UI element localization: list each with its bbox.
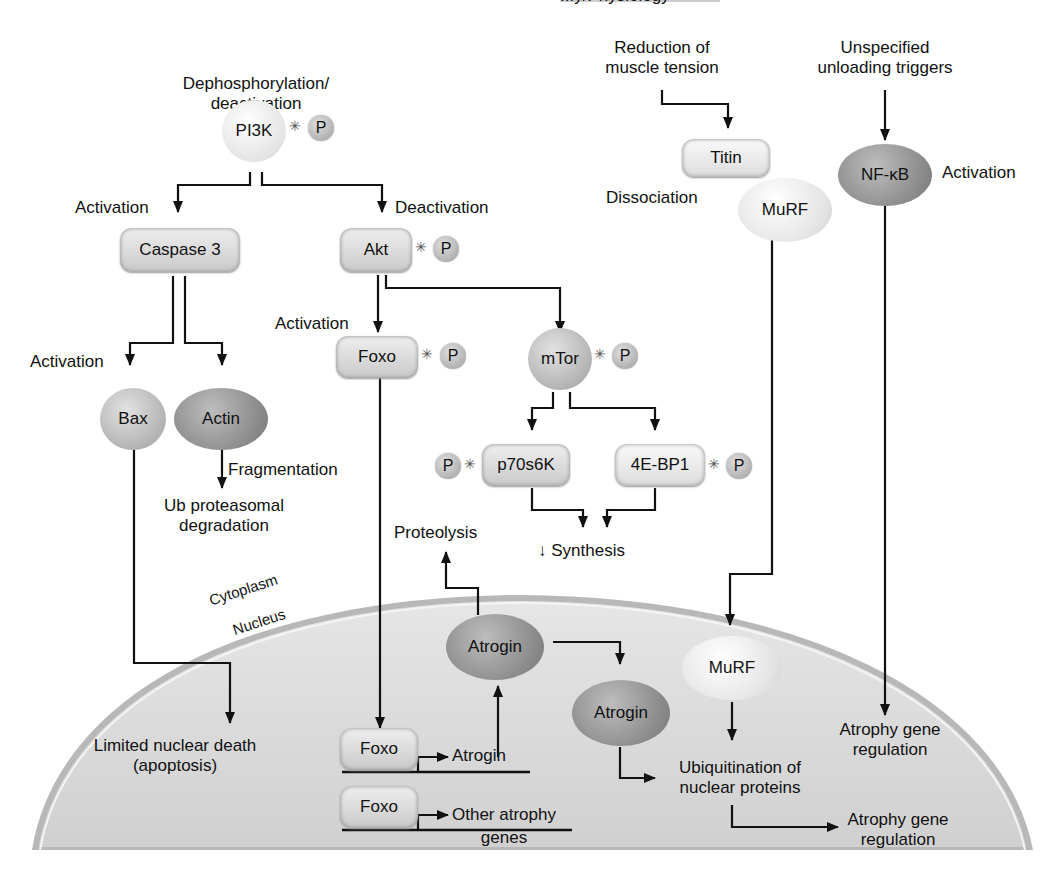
label-fragmentation: Fragmentation	[228, 460, 338, 480]
unloading-trigger-label: Unspecified unloading triggers	[817, 38, 952, 78]
node-mtor: mTor	[528, 328, 592, 390]
phosphate-icon: P	[726, 453, 752, 479]
outcome-atrophy-regulation-1: Atrophy gene regulation	[839, 720, 940, 760]
outcome-proteolysis: Proteolysis	[394, 523, 477, 543]
label-dissociation: Dissociation	[606, 188, 698, 208]
node-p70s6k: p70s6K	[482, 444, 570, 486]
bond-icon: ✳	[594, 346, 606, 362]
outcome-nuclear-death: Limited nuclear death (apoptosis)	[94, 736, 257, 776]
phosphate-icon: P	[308, 115, 334, 141]
node-actin: Actin	[174, 388, 268, 450]
node-atrogin-2: Atrogin	[572, 680, 670, 746]
label-activation-bax: Activation	[30, 352, 104, 372]
phosphate-icon: P	[612, 343, 638, 369]
outcome-ubiquitination: Ubiquitination of nuclear proteins	[679, 758, 801, 798]
node-4ebp1: 4E-BP1	[615, 444, 705, 486]
node-atrogin-1: Atrogin	[446, 614, 544, 680]
bond-icon: ✳	[289, 118, 301, 134]
bond-icon: ✳	[708, 456, 720, 472]
outcome-ub-degradation: Ub proteasomal degradation	[164, 496, 284, 536]
label-deactivation-akt: Deactivation	[395, 198, 489, 218]
node-foxo-gene-2: Foxo	[340, 786, 418, 828]
phosphate-icon: P	[435, 453, 461, 479]
node-bax: Bax	[100, 388, 166, 450]
node-murf: MuRF	[738, 178, 832, 242]
node-foxo-gene-1: Foxo	[340, 728, 418, 770]
label-activation-nfkb: Activation	[942, 163, 1016, 183]
node-pi3k: PI3K	[222, 100, 286, 162]
node-nfkb: NF-κB	[838, 144, 932, 206]
node-titin: Titin	[682, 139, 770, 177]
bond-icon: ✳	[464, 456, 476, 472]
gene-other-atrophy: Other atrophy genes	[452, 803, 556, 849]
bond-icon: ✳	[415, 239, 427, 255]
bond-icon: ✳	[421, 346, 433, 362]
node-foxo: Foxo	[336, 336, 418, 378]
label-activation-caspase: Activation	[75, 198, 149, 218]
outcome-synthesis: ↓ Synthesis	[538, 541, 625, 561]
node-caspase3: Caspase 3	[120, 228, 240, 272]
label-activation-foxo: Activation	[275, 314, 349, 334]
node-akt: Akt	[340, 228, 412, 272]
node-label: PI3K	[236, 121, 273, 141]
phosphate-icon: P	[440, 343, 466, 369]
phosphate-icon: P	[433, 236, 459, 262]
gene-atrogin: Atrogin	[452, 746, 506, 766]
node-murf-nuclear: MuRF	[682, 636, 782, 700]
outcome-atrophy-regulation-2: Atrophy gene regulation	[847, 810, 948, 850]
running-title: ...y/Physiology	[560, 0, 670, 6]
tension-trigger-label: Reduction of muscle tension	[605, 38, 718, 78]
